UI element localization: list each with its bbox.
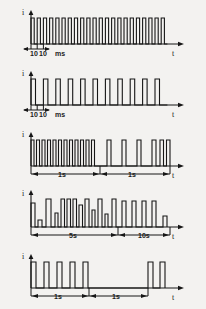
dimension-arrow-left bbox=[23, 108, 28, 112]
y-axis-arrowhead bbox=[29, 132, 34, 137]
waveform-panel-1: i t 10 10 ms bbox=[0, 0, 206, 61]
dimension-label-2: 1s bbox=[128, 171, 136, 178]
dimension-arrow-2-right bbox=[163, 233, 169, 237]
y-axis-label: i bbox=[22, 69, 25, 78]
panel-3-svg: i t 1s 1s bbox=[0, 122, 206, 183]
x-axis-arrowhead bbox=[178, 164, 184, 169]
waveform-panel-5: i t 1s 1s bbox=[0, 244, 206, 305]
pulse-group-trace bbox=[31, 262, 165, 288]
y-axis-arrowhead bbox=[29, 71, 34, 76]
unit-label: ms bbox=[55, 111, 65, 118]
x-axis-arrowhead bbox=[178, 286, 184, 291]
dimension-arrow-1-right bbox=[93, 172, 99, 176]
x-axis-label: t bbox=[172, 171, 175, 180]
dimension-arrow-2-left bbox=[90, 294, 96, 298]
y-axis-arrowhead bbox=[29, 190, 34, 195]
y-axis-label: i bbox=[22, 130, 25, 139]
dimension-label-1: 5s bbox=[69, 232, 77, 239]
x-axis-label: t bbox=[172, 293, 175, 302]
x-axis-label: t bbox=[172, 232, 175, 241]
dimension-arrow-1-left bbox=[32, 294, 38, 298]
x-axis-label: t bbox=[172, 110, 175, 119]
dimension-label-on: 10 bbox=[30, 111, 38, 118]
y-axis-arrowhead bbox=[29, 254, 34, 259]
dimension-arrow-2-left bbox=[119, 233, 125, 237]
y-axis-label: i bbox=[22, 8, 25, 17]
y-axis-arrowhead bbox=[29, 10, 34, 15]
dimension-label-1: 1s bbox=[58, 171, 66, 178]
dimension-label-off: 10 bbox=[39, 50, 47, 57]
dimension-label-off: 10 bbox=[39, 111, 47, 118]
panel-1-svg: i t 10 10 ms bbox=[0, 0, 206, 61]
panel-2-svg: i t 10 10 ms bbox=[0, 61, 206, 122]
x-axis-arrowhead bbox=[178, 103, 184, 108]
y-axis-label: i bbox=[22, 189, 25, 198]
waveform-figure: i t 10 10 ms i t bbox=[0, 0, 206, 309]
x-axis-arrowhead bbox=[178, 42, 184, 47]
x-axis-arrowhead bbox=[178, 225, 184, 230]
dimension-arrow-1-right bbox=[82, 294, 88, 298]
dimension-label-2: 10s bbox=[138, 232, 150, 239]
waveform-panel-3: i t 1s 1s bbox=[0, 122, 206, 183]
pulse-train-trace bbox=[31, 18, 167, 44]
pulse-train-trace bbox=[31, 79, 167, 105]
dimension-label-on: 10 bbox=[30, 50, 38, 57]
dimension-arrow-1-left bbox=[32, 233, 38, 237]
unit-label: ms bbox=[55, 50, 65, 57]
panel-5-svg: i t 1s 1s bbox=[0, 244, 206, 305]
dimension-arrow-left bbox=[23, 47, 28, 51]
pulse-mixed-trace bbox=[31, 199, 167, 227]
dimension-arrow-2-left bbox=[101, 172, 107, 176]
dimension-arrow-1-left bbox=[32, 172, 38, 176]
waveform-panel-4: i t 5s 10s bbox=[0, 183, 206, 244]
waveform-panel-2: i t 10 10 ms bbox=[0, 61, 206, 122]
dimension-arrow-2-right bbox=[163, 172, 169, 176]
panel-4-svg: i t 5s 10s bbox=[0, 183, 206, 244]
x-axis-label: t bbox=[172, 49, 175, 58]
pulse-burst-trace bbox=[31, 140, 170, 166]
dimension-arrow-2-right bbox=[141, 294, 147, 298]
dimension-label-1: 1s bbox=[54, 293, 62, 300]
dimension-label-2: 1s bbox=[112, 293, 120, 300]
dimension-arrow-1-right bbox=[111, 233, 117, 237]
y-axis-label: i bbox=[22, 252, 25, 261]
